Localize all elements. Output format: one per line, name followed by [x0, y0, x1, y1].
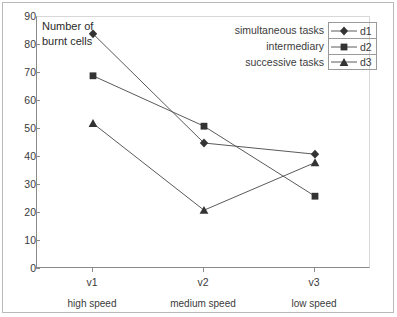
- x-tick-sublabel: high speed: [32, 297, 152, 311]
- legend-item-d1[interactable]: simultaneous tasks d1: [208, 22, 377, 38]
- y-tick-label: 70: [10, 67, 36, 77]
- y-axis: 90 80 70 60 50 40 30 20 10 0: [0, 16, 36, 268]
- legend-key-box: d2: [328, 38, 377, 54]
- data-point-d2-v1: [90, 72, 97, 79]
- legend: simultaneous tasks d1 intermediary d2 su…: [208, 22, 377, 70]
- x-tick-sublabel: medium speed: [143, 297, 263, 311]
- data-point-d3-v2: [200, 206, 209, 214]
- y-tick-label: 80: [10, 39, 36, 49]
- legend-key-label: d3: [357, 56, 372, 68]
- series-d2: [90, 72, 319, 199]
- x-axis-group-v1: v1 high speed: [32, 276, 152, 311]
- legend-key-box: d1: [328, 22, 377, 38]
- legend-description: simultaneous tasks: [208, 24, 328, 36]
- legend-item-d3[interactable]: successive tasks d3: [208, 54, 377, 70]
- data-point-d2-v3: [312, 193, 319, 200]
- y-tick-label: 40: [10, 151, 36, 161]
- series-line-d3: [93, 123, 315, 210]
- series-line-d2: [93, 76, 315, 196]
- data-point-d3-v3: [311, 158, 320, 166]
- y-tick-label: 50: [10, 123, 36, 133]
- y-tick-label: 60: [10, 95, 36, 105]
- x-tick-label: v3: [254, 276, 374, 289]
- x-tick-mark: [314, 268, 315, 272]
- y-tick-label: 30: [10, 179, 36, 189]
- y-tick-label: 20: [10, 207, 36, 217]
- x-axis-group-v3: v3 low speed: [254, 276, 374, 311]
- legend-marker-square-icon: [331, 41, 357, 53]
- legend-marker-triangle-icon: [331, 56, 357, 68]
- y-tick-label: 10: [10, 235, 36, 245]
- x-tick-sublabel: low speed: [254, 297, 374, 311]
- chart-screenshot: 90 80 70 60 50 40 30 20 10 0 Number of b…: [0, 0, 397, 317]
- y-tick-label: 0: [10, 263, 36, 273]
- x-tick-mark: [92, 268, 93, 272]
- data-point-d1-v3: [311, 150, 319, 159]
- series-d3: [89, 119, 320, 214]
- y-tick-label: 90: [10, 11, 36, 21]
- legend-marker-diamond-icon: [331, 25, 357, 37]
- legend-key-box: d3: [328, 54, 377, 70]
- x-axis: v1 high speed v2 medium speed v3 low spe…: [36, 268, 370, 317]
- legend-description: successive tasks: [208, 56, 328, 68]
- data-point-d3-v1: [89, 119, 98, 127]
- legend-key-label: d1: [357, 25, 372, 37]
- legend-description: intermediary: [208, 40, 328, 52]
- x-tick-label: v2: [143, 276, 263, 289]
- legend-item-d2[interactable]: intermediary d2: [208, 38, 377, 54]
- legend-key-label: d2: [357, 41, 372, 53]
- x-tick-mark: [203, 268, 204, 272]
- x-tick-label: v1: [32, 276, 152, 289]
- x-axis-group-v2: v2 medium speed: [143, 276, 263, 311]
- data-point-d2-v2: [201, 123, 208, 130]
